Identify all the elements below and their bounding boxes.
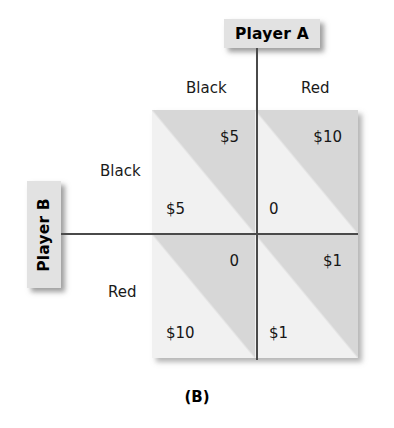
payoff-player-a: $5 [220, 128, 239, 146]
payoff-player-b: $5 [166, 200, 185, 218]
figure-caption: (B) [0, 388, 394, 406]
player-b-label-box: Player B [27, 181, 61, 288]
row-label-black: Black [100, 162, 141, 180]
row-label-red: Red [108, 283, 137, 301]
payoff-player-a: $10 [313, 128, 342, 146]
payoff-player-b: $10 [166, 324, 195, 342]
payoff-matrix-figure: Player A Player B Black Red Black Red $5… [0, 0, 394, 428]
player-a-label: Player A [235, 25, 309, 43]
column-label-red: Red [301, 79, 330, 97]
matrix-cell-red-black: 0 $10 [152, 234, 255, 358]
column-label-black: Black [186, 79, 227, 97]
horizontal-divider-line [60, 233, 358, 235]
payoff-player-b: 0 [269, 200, 279, 218]
vertical-divider-line [256, 48, 258, 360]
matrix-cell-black-black: $5 $5 [152, 110, 255, 234]
payoff-player-a: $1 [323, 252, 342, 270]
player-b-label: Player B [35, 198, 53, 272]
matrix-cell-black-red: $10 0 [255, 110, 358, 234]
player-a-label-box: Player A [224, 19, 320, 48]
payoff-player-a: 0 [229, 252, 239, 270]
payoff-player-b: $1 [269, 324, 288, 342]
matrix-cell-red-red: $1 $1 [255, 234, 358, 358]
